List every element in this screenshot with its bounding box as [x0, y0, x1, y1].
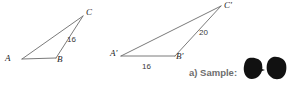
vertex-label-b: B [57, 55, 63, 64]
side-label-b-prime-c-prime: 20 [199, 29, 208, 37]
redacted-blob-right [266, 56, 288, 82]
sample-caption: a) Sample: [189, 68, 237, 78]
vertex-label-c-prime: C' [224, 1, 232, 10]
redacted-blob-left [243, 57, 265, 82]
side-ab [22, 58, 56, 59]
side-b-prime-c-prime [175, 6, 221, 56]
side-label-a-prime-b-prime: 16 [142, 63, 151, 71]
side-label-bc: 16 [67, 36, 76, 44]
vertex-label-b-prime: B' [176, 52, 183, 61]
vertex-label-c: C [86, 8, 92, 17]
vertex-label-a: A [5, 54, 11, 63]
geometry-figure: A B C 16 A' B' C' 16 20 a) Sample: [0, 0, 291, 85]
vertex-label-a-prime: A' [110, 49, 117, 58]
